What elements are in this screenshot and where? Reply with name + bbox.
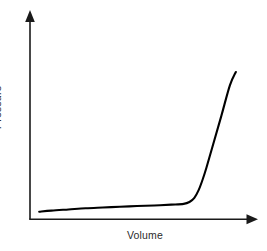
chart-canvas [0, 0, 267, 251]
arrow-up-icon [25, 10, 35, 22]
pressure-volume-curve [39, 72, 236, 212]
x-axis-label: Volume [95, 229, 195, 241]
y-axis-label: Pressure [0, 95, 3, 129]
arrow-right-icon [247, 214, 259, 224]
pressure-volume-chart: Pressure Volume [0, 0, 267, 251]
